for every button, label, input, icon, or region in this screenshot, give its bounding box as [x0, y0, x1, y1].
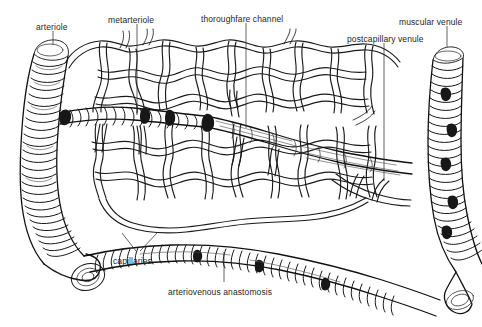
postcapillary-venule-vessel [332, 174, 411, 206]
label-postcapillary-venule: postcapillary venule [347, 34, 424, 44]
microcirculation-diagram: arteriole metarteriole thoroughfare chan… [0, 0, 482, 327]
metarteriole-vessel [59, 107, 206, 154]
label-capillaries: capillaries [113, 256, 152, 266]
arteriole-vessel [20, 40, 84, 264]
muscular-venule-vessel [428, 47, 482, 314]
leader-lines [53, 23, 447, 282]
label-muscular-venule: muscular venule [399, 17, 462, 27]
arteriole-terminal-coil [44, 254, 108, 295]
label-thoroughfare-channel: thoroughfare channel [201, 14, 283, 24]
leader-capillaries-right [140, 232, 158, 251]
label-metarteriole: metarteriole [108, 15, 154, 25]
label-arteriole: arteriole [36, 22, 68, 32]
label-arteriovenous-anastomosis: arteriovenous anastomosis [168, 287, 272, 297]
capillary-network [66, 29, 400, 233]
